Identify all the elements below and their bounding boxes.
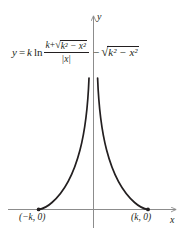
endpoint-dot-left: [37, 208, 41, 212]
equation-equals: =: [19, 47, 25, 58]
equation-lhs: y: [12, 47, 17, 58]
curve-right-branch: [98, 78, 148, 209]
curve-left-branch: [39, 78, 89, 209]
y-axis-label: y: [97, 11, 101, 22]
tail-radicand: k² − x²: [107, 46, 138, 58]
numerator-radicand: k² − x²: [60, 40, 87, 51]
tractrix-figure: y = k ln k+√k² − x² |x| − √k² − x² y x (…: [0, 0, 191, 242]
equation-log: ln: [34, 47, 43, 58]
fraction-denominator: |x|: [60, 53, 73, 64]
tail-radical: √k² − x²: [101, 46, 138, 59]
fraction-numerator: k+√k² − x²: [44, 40, 89, 53]
point-label-left: (−k, 0): [19, 212, 45, 222]
endpoint-dot-right: [146, 208, 150, 212]
equation-coefficient: k: [27, 47, 32, 58]
x-axis-label: x: [170, 214, 174, 225]
equation-label: y = k ln k+√k² − x² |x| − √k² − x²: [12, 40, 139, 65]
numerator-radical: √k² − x²: [55, 40, 87, 51]
point-label-right: (k, 0): [131, 212, 151, 222]
equation-minus: −: [93, 47, 99, 58]
plot-canvas: [0, 0, 191, 242]
equation-fraction: k+√k² − x² |x|: [44, 40, 89, 65]
